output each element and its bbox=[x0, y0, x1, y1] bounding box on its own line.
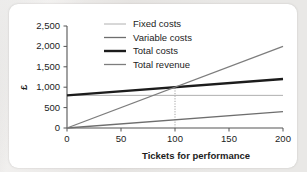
legend-label-variable-costs: Variable costs bbox=[133, 33, 192, 43]
x-tick-label: 100 bbox=[155, 134, 195, 144]
chart-text-layer: £ Tickets for performance 05001,0001,500… bbox=[9, 4, 297, 168]
legend-label-fixed-costs: Fixed costs bbox=[133, 19, 181, 29]
y-tick-label: 1,000 bbox=[9, 82, 60, 92]
legend-label-total-revenue: Total revenue bbox=[133, 60, 190, 70]
y-tick-label: 500 bbox=[9, 103, 60, 113]
x-tick-label: 50 bbox=[101, 134, 141, 144]
y-tick-label: 0 bbox=[9, 123, 60, 133]
x-axis-title: Tickets for performance bbox=[142, 151, 250, 161]
x-tick-label: 150 bbox=[209, 134, 249, 144]
legend-label-total-costs: Total costs bbox=[133, 46, 178, 56]
y-tick-label: 1,500 bbox=[9, 62, 60, 72]
y-tick-label: 2,500 bbox=[9, 21, 60, 31]
y-tick-label: 2,000 bbox=[9, 41, 60, 51]
x-tick-label: 200 bbox=[263, 134, 303, 144]
x-tick-label: 0 bbox=[47, 134, 87, 144]
